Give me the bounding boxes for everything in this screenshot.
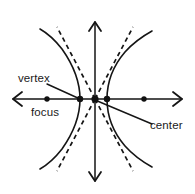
- center-label: center: [150, 120, 183, 132]
- branch-right-lower: [107, 99, 152, 167]
- focus-right-point: [141, 96, 146, 101]
- hyperbola-graphic: [0, 0, 195, 194]
- hyperbola-figure: vertex focus center: [0, 0, 195, 194]
- vertex-label: vertex: [18, 73, 50, 85]
- asymptote-up-left-line: [57, 27, 95, 99]
- focus-left-point: [44, 96, 49, 101]
- vertex-leader-line: [47, 84, 80, 99]
- focus-label: focus: [31, 107, 59, 119]
- center-leader-line: [95, 100, 152, 124]
- branch-left-upper: [40, 29, 80, 99]
- vertex-right-point: [104, 96, 110, 102]
- asymptote-up-right-line: [95, 27, 133, 99]
- center-point: [91, 95, 98, 102]
- vertex-left-point: [77, 96, 83, 102]
- asymptote-down-left-line: [57, 99, 95, 171]
- branch-right-upper: [107, 31, 152, 99]
- asymptote-down-right-line: [95, 99, 133, 171]
